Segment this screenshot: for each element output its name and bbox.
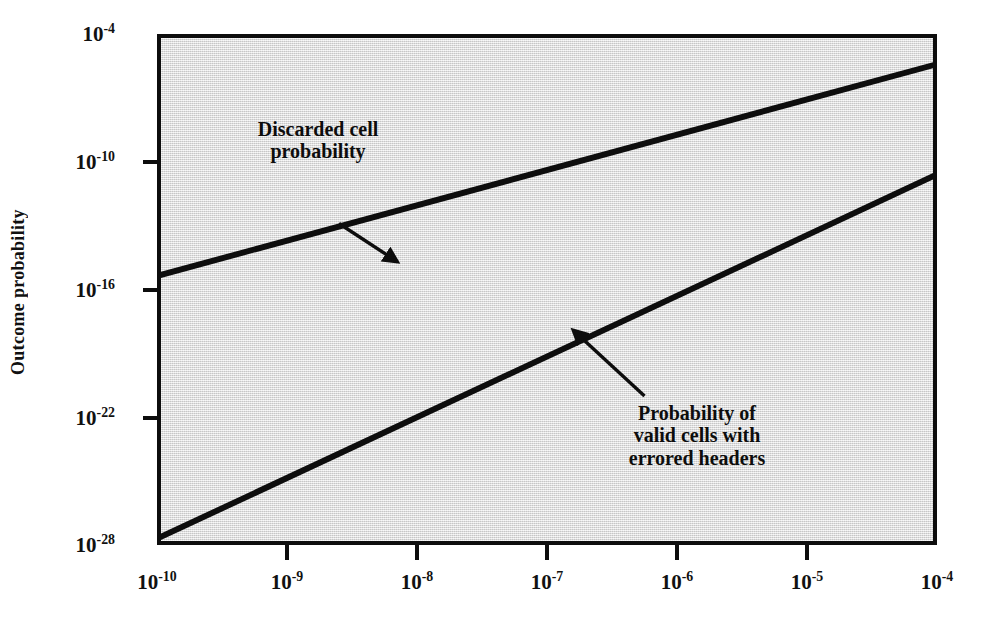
x-axis-tick-label: 10-9 xyxy=(271,570,304,593)
x-axis-tick-mark xyxy=(805,545,809,560)
x-axis-tick-label: 10-4 xyxy=(921,570,954,593)
x-axis-tick-mark xyxy=(545,545,549,560)
x-axis-tick-label: 10-5 xyxy=(791,570,824,593)
x-axis-tick-label: 10-7 xyxy=(531,570,564,593)
chart-figure: Discarded cell probability Probability o… xyxy=(0,0,989,621)
x-axis-tick-mark xyxy=(675,545,679,560)
x-axis-tick-mark xyxy=(415,545,419,560)
y-axis-tick-mark xyxy=(143,416,157,420)
x-axis-tick-label: 10-6 xyxy=(661,570,694,593)
y-axis-tick-mark xyxy=(143,160,157,164)
x-axis-tick-label: 10-10 xyxy=(137,570,176,593)
y-axis-tick-mark xyxy=(143,288,157,292)
x-axis-tick-label: 10-8 xyxy=(401,570,434,593)
x-axis-tick-mark xyxy=(285,545,289,560)
x-axis-tick-layer: 10-1010-910-810-710-610-510-4 xyxy=(0,0,989,621)
